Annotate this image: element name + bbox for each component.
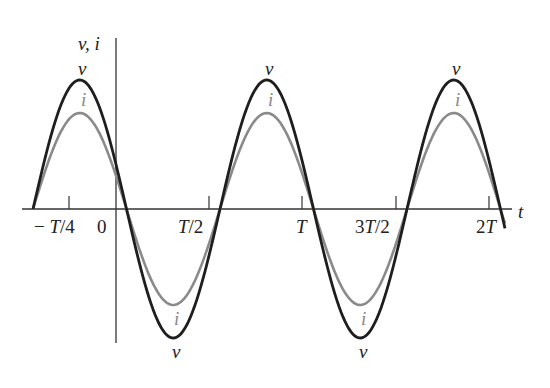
v-peak-label: v — [452, 58, 461, 79]
tick-one: T — [296, 216, 308, 237]
v-trough-label: v — [359, 341, 368, 362]
x-axis-label: t — [518, 201, 524, 222]
i-trough-label: i — [361, 308, 366, 329]
chart: v, i t − T/4 0 T/2 T 3T/2 2T v v v v v i… — [0, 0, 550, 388]
tick-zero: 0 — [97, 216, 107, 237]
x-ticks — [69, 196, 489, 209]
tick-neg-quarter: − T/4 — [34, 216, 75, 237]
tick-three-half: 3T/2 — [355, 216, 390, 237]
v-peak-label: v — [265, 58, 274, 79]
y-axis-label: v, i — [78, 33, 100, 54]
i-trough-label: i — [174, 308, 179, 329]
i-peak-label: i — [268, 89, 273, 110]
tick-two: 2T — [476, 216, 498, 237]
i-peak-label: i — [455, 89, 460, 110]
v-peak-label: v — [78, 58, 87, 79]
tick-half: T/2 — [178, 216, 203, 237]
v-trough-label: v — [172, 341, 181, 362]
i-peak-label: i — [81, 89, 86, 110]
